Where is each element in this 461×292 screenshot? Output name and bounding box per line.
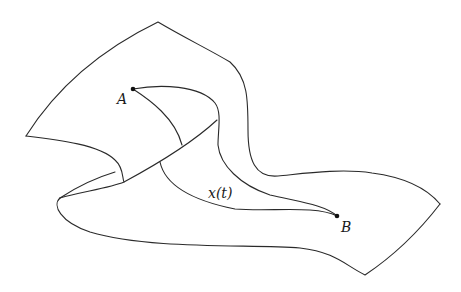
path-x-t bbox=[133, 89, 182, 145]
surface-left-edge bbox=[26, 136, 124, 182]
point-a-label: A bbox=[117, 92, 127, 106]
surface-top-edge bbox=[26, 22, 440, 204]
fold-lower-edge bbox=[60, 120, 217, 198]
path-x-t-lower bbox=[160, 162, 337, 216]
point-b-label: B bbox=[341, 220, 351, 234]
point-b-dot bbox=[335, 214, 340, 219]
fold-inner-edge bbox=[60, 172, 115, 198]
path-x-t-label: x(t) bbox=[208, 186, 232, 200]
surface-diagram bbox=[0, 0, 461, 292]
point-a-dot bbox=[131, 87, 136, 92]
upper-geodesic bbox=[133, 86, 337, 216]
